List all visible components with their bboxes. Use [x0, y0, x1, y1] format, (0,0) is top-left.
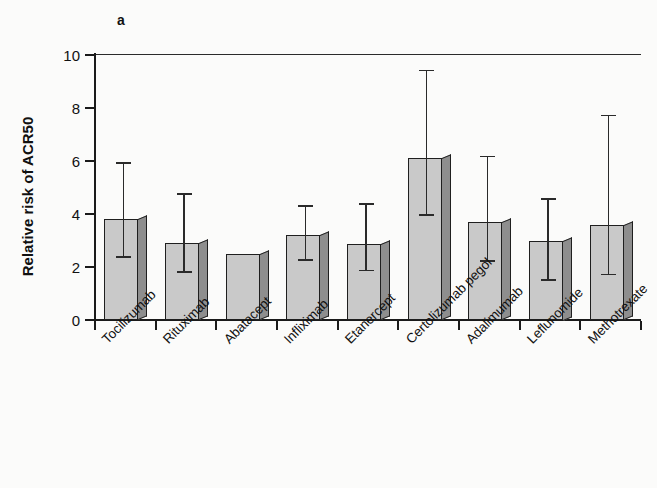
error-bar-cap-lower — [177, 271, 192, 273]
error-bar-line-certolizumab-pegol — [426, 70, 428, 214]
error-bar-line-adalimumab — [487, 156, 489, 261]
y-tick-label-0: 0 — [44, 312, 80, 329]
figure-panel-a: a Relative risk of ACR50 0246810 Tociliz… — [0, 0, 657, 488]
x-tick-2 — [215, 321, 217, 330]
x-tick-4 — [337, 321, 339, 330]
y-tick-8 — [85, 107, 94, 109]
error-bar-cap-upper — [419, 70, 434, 72]
error-bar-cap-upper — [177, 193, 192, 195]
error-bar-cap-upper — [601, 115, 616, 117]
error-bar-line-rituximab — [183, 193, 185, 271]
y-tick-label-4: 4 — [44, 206, 80, 223]
x-tick-8 — [579, 321, 581, 330]
error-bar-cap-upper — [480, 156, 495, 158]
error-bar-line-leflunomide — [547, 198, 549, 279]
error-bar-cap-lower — [298, 259, 313, 261]
x-tick-5 — [397, 321, 399, 330]
error-bar-cap-lower — [116, 256, 131, 258]
y-tick-label-8: 8 — [44, 100, 80, 117]
x-tick-7 — [519, 321, 521, 330]
x-tick-3 — [276, 321, 278, 330]
y-tick-10 — [85, 54, 94, 56]
error-bar-line-tocilizumab — [123, 162, 125, 256]
y-tick-4 — [85, 213, 94, 215]
y-tick-label-6: 6 — [44, 153, 80, 170]
error-bar-cap-upper — [298, 205, 313, 207]
y-tick-2 — [85, 266, 94, 268]
y-tick-6 — [85, 160, 94, 162]
error-bar-cap-upper — [359, 203, 374, 205]
bar-certolizumab-pegol — [408, 158, 442, 320]
y-tick-label-10: 10 — [44, 47, 80, 64]
plot-top-rule — [94, 54, 641, 55]
error-bar-line-etanercept — [365, 203, 367, 269]
panel-letter: a — [117, 12, 125, 28]
error-bar-cap-upper — [541, 198, 556, 200]
x-tick-9 — [640, 321, 642, 330]
x-tick-0 — [94, 321, 96, 330]
error-bar-line-methotrexate — [608, 115, 610, 274]
error-bar-cap-upper — [116, 162, 131, 164]
error-bar-cap-lower — [541, 279, 556, 281]
y-tick-label-2: 2 — [44, 259, 80, 276]
error-bar-cap-lower — [601, 274, 616, 276]
error-bar-cap-lower — [419, 214, 434, 216]
x-tick-1 — [155, 321, 157, 330]
error-bar-cap-lower — [359, 270, 374, 272]
error-bar-line-infliximab — [305, 205, 307, 259]
bar-front-face — [408, 158, 442, 320]
y-tick-0 — [85, 319, 94, 321]
x-tick-6 — [458, 321, 460, 330]
y-axis-title: Relative risk of ACR50 — [19, 82, 36, 312]
y-axis-line — [94, 53, 96, 322]
